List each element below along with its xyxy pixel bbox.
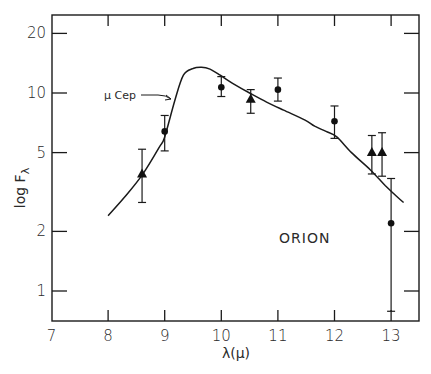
y-axis-label: log Fλ bbox=[12, 167, 32, 208]
circle-marker bbox=[275, 86, 282, 93]
data-point-group bbox=[274, 78, 282, 101]
data-point-group bbox=[137, 149, 147, 202]
y-axis-label-text: log F bbox=[12, 174, 28, 208]
x-tick-label: 10 bbox=[212, 327, 231, 345]
x-tick-label: 7 bbox=[47, 327, 57, 345]
x-axis-label: λ(μ) bbox=[222, 345, 250, 361]
circle-marker bbox=[388, 220, 395, 227]
y-tick-label: 5 bbox=[36, 144, 46, 162]
chart: 78910111213 1251020 λ(μ) log Fλ μ Cep OR… bbox=[0, 0, 431, 374]
circle-marker bbox=[161, 128, 168, 135]
data-point-group bbox=[377, 133, 387, 176]
x-axis: 78910111213 bbox=[47, 15, 401, 345]
data-point-group bbox=[161, 115, 169, 150]
x-tick-label: 13 bbox=[382, 327, 401, 345]
plot-frame bbox=[52, 15, 419, 321]
y-tick-label: 10 bbox=[27, 84, 46, 102]
x-tick-label: 11 bbox=[268, 327, 287, 345]
data-point-group bbox=[246, 90, 256, 114]
y-tick-label: 20 bbox=[27, 24, 46, 42]
data-points-layer bbox=[137, 77, 395, 312]
triangle-marker bbox=[377, 147, 387, 156]
circle-marker bbox=[331, 118, 338, 125]
y-tick-label: 1 bbox=[36, 282, 46, 300]
data-point-group bbox=[217, 77, 225, 97]
model-curve-layer bbox=[108, 67, 404, 216]
circle-marker bbox=[218, 84, 225, 91]
y-axis-label-subscript: λ bbox=[19, 167, 32, 174]
annotation-arrow bbox=[141, 95, 171, 100]
annotation-mu-cep: μ Cep bbox=[104, 89, 136, 102]
y-tick-label: 2 bbox=[36, 222, 46, 240]
data-point-group bbox=[387, 178, 395, 311]
annotation-orion: ORION bbox=[279, 230, 330, 246]
y-axis: 1251020 bbox=[27, 24, 419, 300]
svg-text:log Fλ: log Fλ bbox=[12, 167, 32, 208]
x-tick-label: 9 bbox=[160, 327, 170, 345]
x-tick-label: 12 bbox=[325, 327, 344, 345]
triangle-marker bbox=[367, 147, 377, 156]
x-tick-label: 8 bbox=[103, 327, 113, 345]
model-curve bbox=[108, 67, 404, 216]
